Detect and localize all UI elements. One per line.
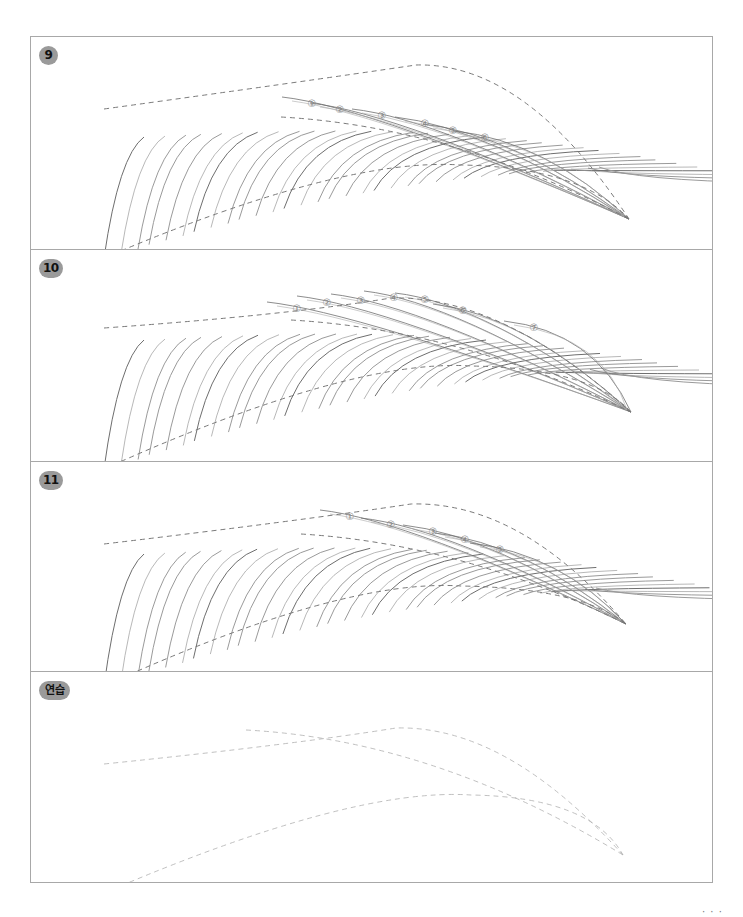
stroke-order-marker: ①	[346, 511, 355, 522]
stroke-order-marker: ⑤	[421, 294, 430, 305]
guide-outline	[104, 298, 631, 462]
panel-step-11: 11 ①②③④⑤	[31, 461, 712, 671]
stroke-order-marker: ①	[308, 98, 317, 109]
hair-strokes	[104, 291, 712, 462]
page-number: · · ·	[702, 906, 723, 917]
eyebrow-practice-guide	[31, 672, 712, 883]
stroke-order-marker: ④	[390, 292, 399, 303]
eyebrow-diagram: ①②③④⑤⑥⑦	[31, 250, 712, 462]
stroke-order-marker: ③	[429, 526, 438, 537]
panel-step-10: 10 ①②③④⑤⑥⑦	[31, 249, 712, 461]
eyebrow-diagram: ①②③④⑤	[31, 462, 712, 672]
stroke-order-marker: ⑥	[459, 305, 468, 316]
stroke-order-marker: ⑤	[449, 125, 458, 136]
stroke-order-marker: ③	[378, 110, 387, 121]
panel-step-9: 9 ①②③④⑤⑥	[31, 37, 712, 249]
eyebrow-diagram: ①②③④⑤⑥	[31, 37, 712, 249]
stroke-order-marker: ②	[387, 519, 396, 530]
stroke-order-marker: ⑤	[496, 544, 505, 555]
guide-outline	[104, 65, 629, 249]
stroke-order-marker: ③	[357, 295, 366, 306]
stroke-order-marker: ④	[461, 534, 470, 545]
hair-strokes	[104, 510, 712, 672]
panel-practice: 연습	[31, 671, 712, 882]
guide-outline	[104, 728, 623, 883]
worksheet-frame: 9 ①②③④⑤⑥ 10 ①②③④⑤⑥⑦ 11 ①②③④⑤ 연습	[30, 36, 713, 883]
hair-strokes	[104, 97, 712, 249]
stroke-order-marker: ②	[336, 104, 345, 115]
stroke-order-marker: ⑥	[481, 132, 490, 143]
stroke-order-marker: ④	[421, 118, 430, 129]
stroke-order-marker: ①	[293, 303, 302, 314]
stroke-order-marker: ⑦	[530, 322, 539, 333]
stroke-order-marker: ②	[323, 297, 332, 308]
